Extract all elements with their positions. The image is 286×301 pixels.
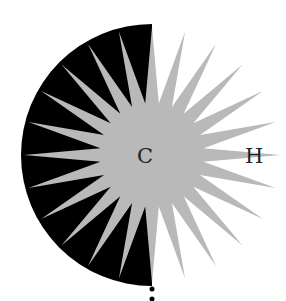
dot-1 bbox=[150, 287, 155, 292]
diagram-canvas: C H bbox=[0, 0, 286, 301]
diagram: C H bbox=[0, 0, 286, 301]
dot-2 bbox=[150, 297, 155, 301]
label-h: H bbox=[245, 144, 263, 168]
label-c: C bbox=[137, 144, 153, 168]
